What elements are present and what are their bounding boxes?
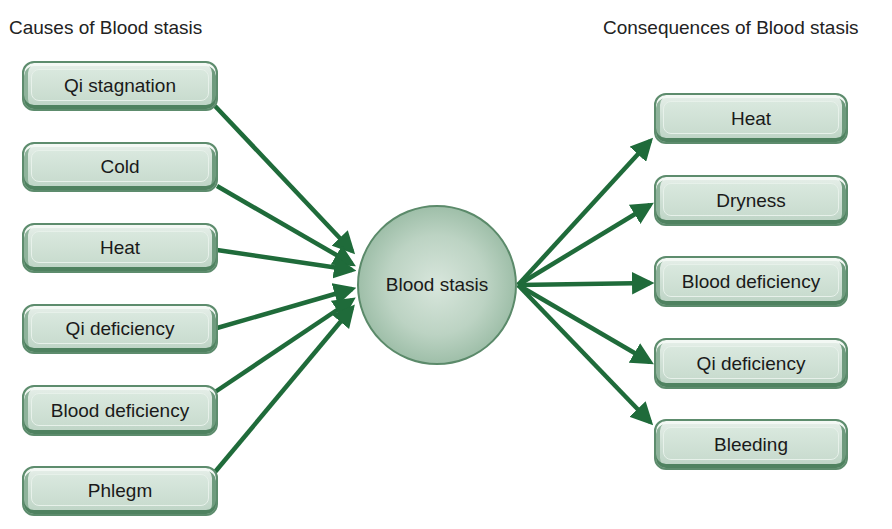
cause-cold: Cold — [22, 142, 218, 192]
consequence-label: Dryness — [716, 190, 786, 212]
consequence-dryness: Dryness — [654, 175, 848, 226]
cause-label: Blood deficiency — [51, 400, 189, 422]
cause-blood-deficiency: Blood deficiency — [22, 385, 218, 436]
consequence-label: Bleeding — [714, 434, 788, 456]
consequence-blood-deficiency: Blood deficiency — [654, 256, 848, 307]
cause-qi-stagnation: Qi stagnation — [22, 61, 218, 111]
consequence-bleeding: Bleeding — [654, 419, 848, 470]
cause-heat: Heat — [22, 223, 218, 273]
center-label: Blood stasis — [386, 274, 488, 296]
cause-label: Phlegm — [88, 480, 152, 502]
center-node-blood-stasis: Blood stasis — [357, 205, 517, 365]
consequence-label: Heat — [731, 108, 771, 130]
arrow-qi-stagnation — [215, 106, 352, 251]
cause-label: Cold — [100, 156, 139, 178]
consequence-heat: Heat — [654, 93, 848, 144]
consequence-label: Blood deficiency — [682, 271, 820, 293]
cause-phlegm: Phlegm — [22, 466, 218, 516]
cause-label: Qi deficiency — [66, 318, 175, 340]
consequence-qi-deficiency: Qi deficiency — [654, 338, 848, 389]
cause-label: Heat — [100, 237, 140, 259]
cause-label: Qi stagnation — [64, 75, 176, 97]
cause-qi-deficiency: Qi deficiency — [22, 304, 218, 354]
consequence-label: Qi deficiency — [697, 353, 806, 375]
